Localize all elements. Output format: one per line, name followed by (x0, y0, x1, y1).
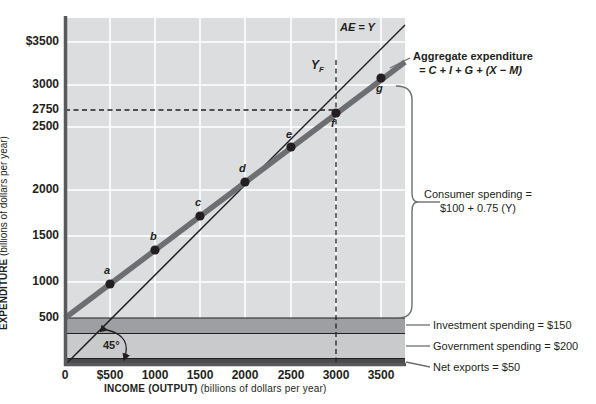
figure-aggregate-expenditure: $3500 3000 2750 2500 2000 1500 1000 500 … (0, 0, 596, 404)
y-tick-3000: 3000 (4, 77, 59, 91)
data-point-c (195, 211, 204, 220)
y-axis-title-units: (billions of dollars per year) (0, 136, 9, 256)
x-axis-title-units: (billions of dollars per year) (201, 383, 327, 394)
y-tick-1000: 1000 (4, 274, 59, 288)
investment-spending-band (65, 318, 405, 333)
consumer-spending-line1: Consumer spending = (424, 188, 532, 202)
government-band-label: Government spending = $200 (433, 340, 578, 352)
data-point-b (150, 245, 159, 254)
consumer-spending-label: Consumer spending = $100 + 0.75 (Y) (424, 188, 532, 216)
point-label-d: d (239, 162, 246, 174)
x-axis-title: INCOME (OUTPUT) (billions of dollars per… (104, 383, 327, 394)
leader-net-exports (406, 362, 430, 367)
x-axis-title-main: INCOME (OUTPUT) (104, 383, 198, 394)
point-label-b: b (150, 230, 157, 242)
aggregate-expenditure-line1: Aggregate expenditure (413, 50, 533, 64)
full-employment-marker-label: YF (311, 58, 324, 74)
x-tick-2000: 2000 (220, 368, 270, 382)
y-axis-title-main: EXPENDITURE (0, 259, 9, 330)
band-leader-lines (406, 325, 430, 367)
point-label-g: g (376, 82, 383, 94)
data-point-d (240, 177, 249, 186)
x-tick-1000: 1000 (130, 368, 180, 382)
x-tick-3500: 3500 (356, 368, 406, 382)
y-tick-500: 500 (4, 310, 59, 324)
investment-band-label: Investment spending = $150 (433, 319, 572, 331)
x-tick-0: 0 (50, 368, 80, 382)
point-label-c: c (195, 196, 201, 208)
y-axis-title: EXPENDITURE (billions of dollars per yea… (0, 110, 9, 330)
y-tick-3500: $3500 (4, 34, 59, 48)
y-tick-2000: 2000 (4, 182, 59, 196)
ae-equals-y-label: AE = Y (340, 21, 375, 33)
yf-subscript: F (319, 65, 324, 74)
yf-main: Y (311, 58, 319, 72)
x-tick-500: $500 (85, 368, 135, 382)
angle-45-label: 45° (103, 339, 120, 351)
y-tick-2500: 2500 (4, 119, 59, 133)
data-point-e (286, 142, 295, 151)
x-tick-1500: 1500 (175, 368, 225, 382)
point-label-e: e (286, 128, 292, 140)
point-label-a: a (104, 264, 110, 276)
x-tick-2500: 2500 (266, 368, 316, 382)
aggregate-expenditure-label: Aggregate expenditure = C + I + G + (X −… (413, 50, 533, 78)
aggregate-expenditure-line2: = C + I + G + (X − M) (413, 64, 533, 78)
y-tick-2750: 2750 (4, 102, 59, 116)
x-tick-3000: 3000 (311, 368, 361, 382)
net-exports-band-label: Net exports = $50 (433, 361, 520, 373)
data-point-a (105, 279, 114, 288)
y-tick-1500: 1500 (4, 228, 59, 242)
consumer-spending-line2: $100 + 0.75 (Y) (424, 202, 532, 216)
point-label-f: f (331, 117, 335, 129)
